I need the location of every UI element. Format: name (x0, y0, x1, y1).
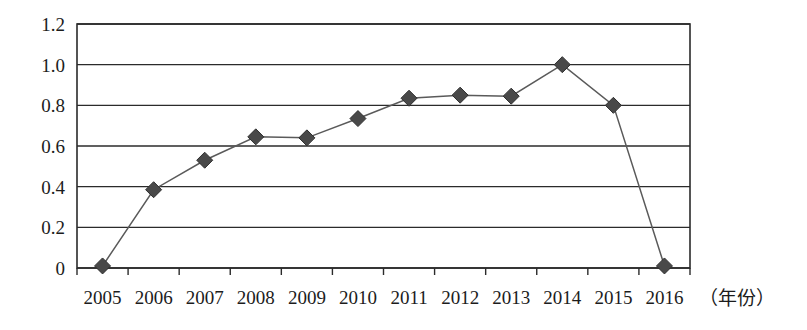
x-tick-label: 2007 (186, 287, 224, 308)
x-axis-title: （年份） (699, 288, 775, 309)
y-tick-label: 0.4 (41, 177, 65, 198)
chart-canvas: 00.20.40.60.81.01.2 20052006200720082009… (0, 0, 807, 330)
x-tick-label: 2012 (441, 287, 479, 308)
data-point-marker (554, 57, 570, 73)
data-point-marker (452, 87, 468, 103)
x-tick-label: 2006 (135, 287, 173, 308)
data-point-marker (146, 182, 162, 198)
data-point-marker (95, 258, 111, 274)
y-tick-label: 1.0 (41, 55, 65, 76)
x-axis-tick-marks (77, 268, 690, 275)
line-chart-figure: 00.20.40.60.81.01.2 20052006200720082009… (0, 0, 807, 330)
data-point-marker (299, 130, 315, 146)
x-axis-tick-labels: 2005200620072008200920102011201220132014… (84, 287, 684, 308)
y-axis-tick-labels: 00.20.40.60.81.01.2 (41, 14, 65, 279)
data-point-marker (197, 152, 213, 168)
data-series-line (103, 65, 665, 266)
y-tick-label: 0.8 (41, 95, 65, 116)
x-tick-label: 2016 (645, 287, 683, 308)
data-point-markers (95, 57, 673, 274)
y-tick-label: 0 (56, 258, 66, 279)
data-point-marker (503, 88, 519, 104)
series-polyline (103, 65, 665, 266)
y-tick-label: 1.2 (41, 14, 65, 35)
data-point-marker (248, 129, 264, 145)
x-tick-label: 2014 (543, 287, 582, 308)
x-tick-label: 2008 (237, 287, 275, 308)
x-tick-label: 2013 (492, 287, 530, 308)
data-point-marker (656, 258, 672, 274)
data-point-marker (401, 90, 417, 106)
x-tick-label: 2015 (594, 287, 632, 308)
y-tick-label: 0.6 (41, 136, 65, 157)
x-tick-label: 2010 (339, 287, 377, 308)
data-point-marker (605, 97, 621, 113)
x-tick-label: 2011 (390, 287, 427, 308)
data-point-marker (350, 111, 366, 127)
x-tick-label: 2005 (84, 287, 122, 308)
chart-screenshot: 00.20.40.60.81.01.2 20052006200720082009… (0, 0, 807, 330)
y-tick-label: 0.2 (41, 217, 65, 238)
gridline-group (77, 24, 690, 268)
x-tick-label: 2009 (288, 287, 326, 308)
